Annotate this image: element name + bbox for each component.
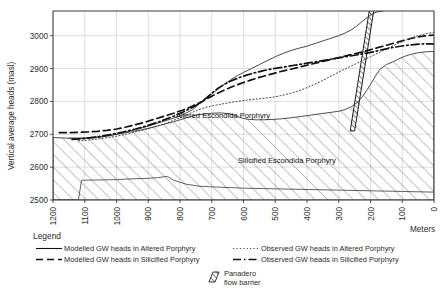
x-tick-label: 1200	[49, 207, 58, 226]
x-tick-label: 1000	[113, 207, 122, 226]
legend-label-panadero-line1: Panadero	[224, 269, 256, 278]
y-tick-label: 2800	[30, 97, 49, 106]
x-tick-label: 1100	[81, 207, 90, 225]
chart-figure: 1200110010009008007006005004003002001000…	[0, 0, 448, 294]
x-tick-label: 500	[271, 207, 280, 221]
annotation-silicified-porphyry: Silicified Escondida Porphyry	[238, 156, 336, 165]
x-tick-label: 900	[144, 207, 153, 221]
x-tick-label: 0	[430, 207, 439, 212]
legend-label-3[interactable]: Observed GW heads in Silicified Porphyry	[261, 255, 399, 264]
x-tick-label: 200	[367, 207, 376, 221]
legend-label-2[interactable]: Modelled GW heads in Silicified Porphyry	[64, 255, 200, 264]
legend-label-0[interactable]: Modelled GW heads in Altered Porphyry	[64, 244, 196, 253]
chart-svg: 1200110010009008007006005004003002001000…	[0, 0, 448, 294]
annotation-altered-porphyry: Altered Escondida Porphyry	[176, 111, 270, 120]
y-tick-label: 2600	[30, 163, 49, 172]
y-tick-label: 3000	[30, 32, 49, 41]
y-tick-label: 2900	[30, 65, 49, 74]
legend-label-panadero-line2: flow barrier	[224, 278, 261, 287]
x-tick-label: 400	[303, 207, 312, 221]
legend-title: Legend	[33, 231, 61, 241]
legend-swatch-panadero	[209, 272, 219, 282]
legend-label-1[interactable]: Observed GW heads in Altered Porphyry	[261, 244, 395, 253]
x-axis-label: Meters	[410, 225, 435, 234]
x-tick-label: 100	[398, 207, 407, 221]
y-tick-label: 2500	[30, 196, 49, 205]
x-tick-label: 300	[335, 207, 344, 221]
x-tick-label: 800	[176, 207, 185, 221]
y-axis-label: Vertical average heads (masl)	[7, 61, 16, 170]
x-tick-label: 600	[240, 207, 249, 221]
y-tick-label: 2700	[30, 130, 49, 139]
legend: Modelled GW heads in Altered PorphyryObs…	[36, 244, 399, 287]
x-tick-label: 700	[208, 207, 217, 221]
